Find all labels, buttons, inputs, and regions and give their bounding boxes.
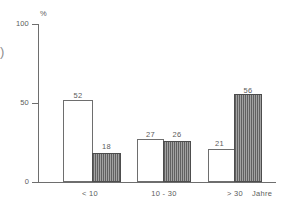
edge-artifact-paren: ) bbox=[0, 45, 4, 58]
y-tick-mark-0 bbox=[32, 182, 38, 183]
x-category-label-1: < 10 bbox=[58, 190, 122, 198]
y-tick-label-0: 0 bbox=[5, 178, 29, 186]
y-tick-mark-50 bbox=[32, 103, 38, 104]
y-tick-mark-100 bbox=[32, 24, 38, 25]
y-tick-label-100: 100 bbox=[5, 20, 29, 28]
bar-value-group3-open: 21 bbox=[206, 140, 233, 148]
y-tick-label-50: 50 bbox=[5, 99, 29, 107]
bar-value-group3-hatched: 56 bbox=[234, 87, 262, 95]
bar-group3-open bbox=[208, 149, 235, 182]
bar-value-group2-open: 27 bbox=[137, 131, 164, 139]
bar-group3-hatched bbox=[234, 94, 262, 182]
bar-group2-hatched bbox=[163, 141, 191, 182]
bar-value-group1-open: 52 bbox=[63, 92, 93, 100]
y-axis-line bbox=[38, 24, 39, 183]
bar-group2-open bbox=[137, 139, 164, 182]
bar-value-group1-hatched: 18 bbox=[92, 143, 121, 151]
x-category-label-2: 10 - 30 bbox=[132, 190, 196, 198]
bar-group1-open bbox=[63, 100, 93, 182]
bar-chart: ) % 100 50 0 52 18 < 10 27 26 10 - 30 21… bbox=[0, 0, 288, 209]
x-axis-unit-label: Jahre bbox=[252, 190, 272, 198]
x-axis-line bbox=[38, 182, 276, 183]
bar-group1-hatched bbox=[92, 153, 121, 182]
bar-value-group2-hatched: 26 bbox=[163, 131, 191, 139]
y-axis-unit-label: % bbox=[40, 10, 47, 18]
